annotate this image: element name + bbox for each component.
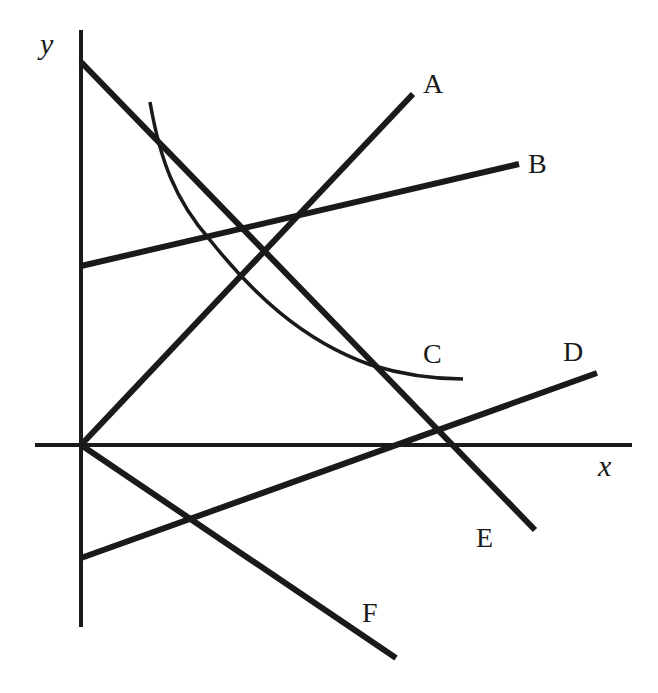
line-B [81,164,519,266]
line-D [81,373,597,558]
label-B: B [528,148,547,179]
label-E: E [476,522,493,553]
line-A [81,94,413,445]
label-A: A [423,68,444,99]
line-F [81,445,396,658]
label-D: D [563,336,583,367]
y-axis-label: y [37,27,54,60]
label-C: C [423,338,442,369]
x-axis-label: x [597,449,612,482]
label-F: F [362,597,378,628]
diagram-canvas: A B C D E F x y [0,0,658,693]
line-E [81,62,535,530]
